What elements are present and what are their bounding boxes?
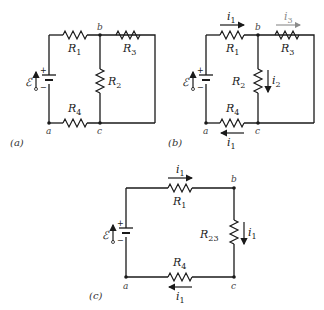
r4-label: R4 — [67, 102, 81, 117]
node-c-dot — [256, 121, 260, 125]
circuit-b: + − ℰ R1 R3 R2 R4 i1 i3 i2 i1 b a c (b) — [168, 10, 314, 151]
r4-label: R4 — [225, 102, 239, 117]
node-b-label: b — [255, 22, 261, 32]
node-c-dot — [98, 121, 102, 125]
resistor-r4-icon — [168, 273, 192, 281]
emf-label: ℰ — [25, 76, 33, 89]
node-a-dot — [204, 121, 208, 125]
circuit-figure: + − ℰ R1 R3 R2 R4 b a c (a) — [0, 0, 324, 310]
r23-label: R23 — [199, 228, 218, 243]
node-c-label: c — [231, 281, 236, 291]
node-c-label: c — [255, 126, 260, 136]
node-a-label: a — [123, 281, 128, 291]
node-a-label: a — [46, 126, 51, 136]
minus-sign: − — [40, 83, 47, 92]
r1-label: R1 — [225, 42, 239, 57]
node-b-label: b — [97, 22, 103, 32]
resistor-r3-icon — [116, 31, 140, 39]
r4-label: R4 — [172, 256, 186, 271]
resistor-r3-icon — [275, 31, 299, 39]
caption-c: (c) — [89, 290, 103, 301]
minus-sign: − — [117, 236, 124, 245]
i1-bottom-label: i1 — [176, 290, 185, 305]
plus-sign: + — [197, 66, 204, 75]
node-b-label: b — [231, 174, 237, 184]
circuit-a: + − ℰ R1 R3 R2 R4 b a c (a) — [10, 22, 155, 148]
caption-a: (a) — [10, 137, 24, 148]
r3-label: R3 — [280, 42, 294, 57]
r3-label: R3 — [122, 42, 136, 57]
resistor-r4-icon — [220, 119, 244, 127]
battery-icon — [199, 75, 213, 80]
r1-label: R1 — [172, 195, 186, 210]
i1-top-label: i1 — [176, 163, 185, 178]
i1-bottom-label: i1 — [227, 136, 236, 151]
resistor-r2-icon — [96, 69, 104, 93]
battery-icon — [42, 75, 56, 80]
r2-label: R2 — [231, 75, 245, 90]
node-c-label: c — [97, 126, 102, 136]
plus-sign: + — [117, 219, 124, 228]
i1-label: i1 — [227, 10, 236, 25]
node-b-dot — [232, 186, 236, 190]
plus-sign: + — [40, 66, 47, 75]
node-c-dot — [232, 275, 236, 279]
resistor-r4-icon — [63, 119, 87, 127]
emf-label: ℰ — [102, 229, 110, 242]
emf-label: ℰ — [182, 76, 190, 89]
i3-label: i3 — [284, 10, 293, 25]
r1-label: R1 — [67, 42, 81, 57]
r2-label: R2 — [107, 75, 121, 90]
caption-b: (b) — [168, 137, 182, 148]
resistor-r23-icon — [230, 220, 238, 244]
node-a-label: a — [203, 126, 208, 136]
node-a-dot — [47, 121, 51, 125]
resistor-r1-icon — [220, 31, 244, 39]
resistor-r2-icon — [254, 69, 262, 93]
i1-right-label: i1 — [248, 226, 257, 241]
node-b-dot — [98, 33, 102, 37]
node-b-dot — [256, 33, 260, 37]
circuit-c: + − ℰ R1 R23 R4 i1 i1 i1 b a c (c) — [89, 163, 257, 305]
i2-label: i2 — [272, 74, 281, 89]
resistor-r1-icon — [168, 184, 192, 192]
minus-sign: − — [197, 83, 204, 92]
resistor-r1-icon — [63, 31, 87, 39]
node-a-dot — [124, 275, 128, 279]
battery-icon — [119, 228, 133, 233]
